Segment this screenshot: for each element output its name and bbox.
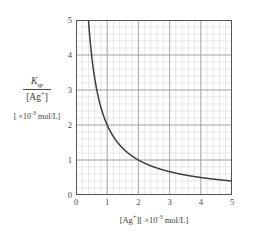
y-axis-denominator: [Ag+] <box>23 90 51 103</box>
y-axis-denominator-open: [Ag <box>26 93 41 103</box>
x-tick-label: 3 <box>163 197 177 207</box>
x-tick-label: 4 <box>194 197 208 207</box>
y-axis-unit-prefix: [ ×10 <box>14 112 31 121</box>
x-axis-label-open: [Ag <box>120 215 133 225</box>
y-axis-label: Ksp [Ag+] [ ×10-3 mol/L] <box>2 76 72 121</box>
plot-area <box>76 20 232 195</box>
y-tick-label: 4 <box>58 50 72 60</box>
minor-gridlines <box>76 20 232 195</box>
y-axis-unit-suffix: mol/L] <box>36 112 60 121</box>
x-axis-unit-prefix: [ ×10 <box>139 215 157 225</box>
y-tick-label: 5 <box>58 15 72 25</box>
major-gridlines <box>76 20 232 195</box>
y-axis-numerator-subscript: sp <box>37 81 43 88</box>
data-curve <box>88 20 232 181</box>
y-axis-numerator: Ksp <box>23 76 51 88</box>
y-axis-denominator-close: ] <box>45 93 48 103</box>
x-tick-label: 0 <box>69 197 83 207</box>
plot-frame <box>77 21 232 195</box>
plot-svg <box>76 20 232 195</box>
y-tick-label: 1 <box>58 155 72 165</box>
chart-figure: Ksp [Ag+] [ ×10-3 mol/L] [Ag+][ ×10-3 mo… <box>0 0 262 234</box>
x-tick-label: 2 <box>131 197 145 207</box>
x-axis-unit-suffix: mol/L] <box>163 215 189 225</box>
y-axis-label-fraction: Ksp [Ag+] <box>23 76 51 103</box>
y-tick-label: 2 <box>58 120 72 130</box>
x-tick-label: 1 <box>100 197 114 207</box>
x-axis-label: [Ag+][ ×10-3 mol/L] <box>75 213 233 225</box>
x-tick-label: 5 <box>225 197 239 207</box>
y-tick-label: 3 <box>58 85 72 95</box>
